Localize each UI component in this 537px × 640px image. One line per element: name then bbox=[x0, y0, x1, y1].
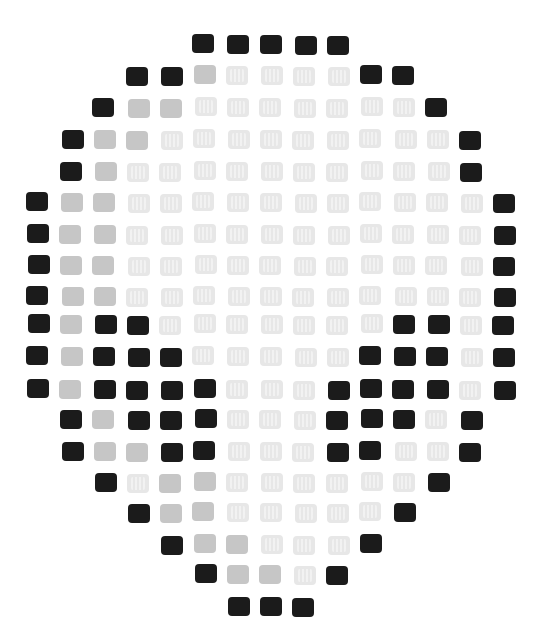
dark-square bbox=[393, 315, 415, 334]
light-square bbox=[192, 346, 214, 365]
light-square bbox=[295, 348, 317, 367]
dark-square bbox=[28, 314, 50, 333]
dark-square bbox=[28, 255, 50, 274]
light-square bbox=[260, 130, 282, 149]
light-square bbox=[326, 99, 348, 118]
dark-square bbox=[426, 347, 448, 366]
light-square bbox=[327, 348, 349, 367]
dark-square bbox=[459, 131, 481, 150]
light-square bbox=[227, 347, 249, 366]
light-square bbox=[127, 163, 149, 182]
gray-square bbox=[194, 472, 216, 491]
light-square bbox=[328, 67, 350, 86]
light-square bbox=[128, 257, 150, 276]
light-square bbox=[226, 473, 248, 492]
dark-square bbox=[62, 442, 84, 461]
light-square bbox=[395, 442, 417, 461]
dark-square bbox=[494, 226, 516, 245]
gray-square bbox=[94, 442, 116, 461]
light-square bbox=[161, 131, 183, 150]
light-square bbox=[227, 193, 249, 212]
light-square bbox=[226, 380, 248, 399]
light-square bbox=[295, 194, 317, 213]
gray-square bbox=[94, 225, 116, 244]
light-square bbox=[359, 129, 381, 148]
light-square bbox=[227, 256, 249, 275]
light-square bbox=[293, 316, 315, 335]
light-square bbox=[261, 225, 283, 244]
dark-square bbox=[27, 379, 49, 398]
dark-square bbox=[393, 410, 415, 429]
light-square bbox=[393, 256, 415, 275]
dark-square bbox=[128, 504, 150, 523]
dark-square bbox=[295, 36, 317, 55]
gray-square bbox=[259, 565, 281, 584]
dark-square bbox=[427, 380, 449, 399]
light-square bbox=[260, 347, 282, 366]
gray-square bbox=[60, 256, 82, 275]
light-square bbox=[293, 536, 315, 555]
light-square bbox=[294, 411, 316, 430]
dark-square bbox=[493, 194, 515, 213]
gray-square bbox=[159, 474, 181, 493]
dark-square bbox=[161, 536, 183, 555]
light-square bbox=[361, 255, 383, 274]
light-square bbox=[359, 502, 381, 521]
light-square bbox=[294, 99, 316, 118]
dark-square bbox=[326, 566, 348, 585]
light-square bbox=[261, 535, 283, 554]
light-square bbox=[427, 287, 449, 306]
dark-square bbox=[92, 98, 114, 117]
dark-square bbox=[392, 66, 414, 85]
light-square bbox=[360, 224, 382, 243]
light-square bbox=[395, 287, 417, 306]
light-square bbox=[428, 162, 450, 181]
light-square bbox=[195, 255, 217, 274]
dark-square bbox=[361, 409, 383, 428]
light-square bbox=[326, 163, 348, 182]
dark-square bbox=[192, 34, 214, 53]
light-square bbox=[193, 286, 215, 305]
light-square bbox=[261, 162, 283, 181]
gray-square bbox=[92, 410, 114, 429]
light-square bbox=[326, 257, 348, 276]
dark-square bbox=[26, 192, 48, 211]
light-square bbox=[427, 442, 449, 461]
gray-square bbox=[62, 287, 84, 306]
dark-square bbox=[193, 441, 215, 460]
gray-square bbox=[194, 534, 216, 553]
dark-square bbox=[459, 443, 481, 462]
dark-square bbox=[360, 379, 382, 398]
dark-square bbox=[227, 35, 249, 54]
dark-square bbox=[195, 409, 217, 428]
dark-square bbox=[27, 224, 49, 243]
light-square bbox=[159, 316, 181, 335]
dark-square bbox=[126, 381, 148, 400]
dark-square bbox=[327, 36, 349, 55]
light-square bbox=[228, 130, 250, 149]
light-square bbox=[260, 287, 282, 306]
light-square bbox=[161, 226, 183, 245]
light-square bbox=[260, 193, 282, 212]
light-square bbox=[194, 224, 216, 243]
light-square bbox=[326, 474, 348, 493]
light-square bbox=[126, 288, 148, 307]
gray-square bbox=[92, 256, 114, 275]
light-square bbox=[195, 97, 217, 116]
light-square bbox=[227, 98, 249, 117]
gray-square bbox=[59, 380, 81, 399]
light-square bbox=[327, 288, 349, 307]
dark-square bbox=[360, 534, 382, 553]
light-square bbox=[226, 315, 248, 334]
gray-square bbox=[194, 65, 216, 84]
light-square bbox=[261, 315, 283, 334]
light-square bbox=[461, 257, 483, 276]
dark-square bbox=[161, 67, 183, 86]
light-square bbox=[459, 381, 481, 400]
light-square bbox=[259, 256, 281, 275]
dark-square bbox=[494, 381, 516, 400]
light-square bbox=[261, 380, 283, 399]
light-square bbox=[226, 66, 248, 85]
dark-square bbox=[26, 286, 48, 305]
dark-square bbox=[128, 348, 150, 367]
